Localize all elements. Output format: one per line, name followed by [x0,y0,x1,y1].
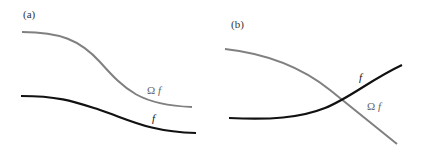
f-label-b: f [359,71,362,83]
panel-a: (a) Ω f f [0,0,210,158]
panel-b-curves [210,0,421,158]
omega-f-label-a: Ω f [147,84,161,96]
panel-a-curves [0,0,210,158]
f-label-a: f [152,112,155,124]
omega-f-curve-b [225,49,397,144]
omega-f-label-b: Ω f [367,100,381,112]
f-curve-a [21,96,196,133]
panel-b: (b) f Ω f [210,0,421,158]
omega-f-curve-a [22,32,192,107]
